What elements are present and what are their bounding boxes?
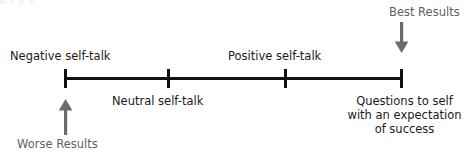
questions-line-1: Questions to self xyxy=(337,94,472,108)
axis-tick-4 xyxy=(400,69,403,88)
positive-self-talk-label: Positive self-talk xyxy=(228,50,321,63)
arrow-up-icon xyxy=(55,98,77,136)
axis-tick-1 xyxy=(64,69,67,88)
arrow-down-icon xyxy=(394,22,410,54)
worse-results-label: Worse Results xyxy=(17,138,98,151)
continuum-axis-line xyxy=(65,77,402,80)
questions-line-2: with an expectation xyxy=(337,108,472,122)
questions-to-self-label: Questions to self with an expectation of… xyxy=(337,94,472,136)
best-results-label: Best Results xyxy=(389,6,460,19)
axis-tick-3 xyxy=(284,69,287,88)
clipped-text-artifact: p j g y xyxy=(0,0,472,4)
self-talk-continuum-diagram: p j g y Best Results Negative self-talk … xyxy=(0,0,472,158)
neutral-self-talk-label: Neutral self-talk xyxy=(112,95,203,108)
axis-tick-2 xyxy=(167,69,170,88)
negative-self-talk-label: Negative self-talk xyxy=(10,50,111,63)
questions-line-3: of success xyxy=(337,122,472,136)
